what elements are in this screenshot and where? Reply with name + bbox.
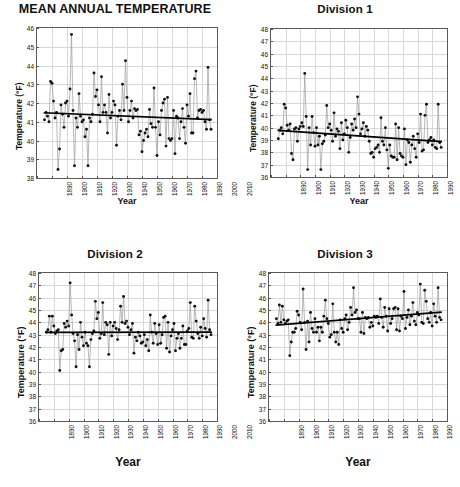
data-point-marker <box>431 143 434 146</box>
data-point-marker <box>403 290 406 293</box>
x-axis-tick-label: 1960 <box>402 425 409 451</box>
data-point-marker <box>195 70 198 73</box>
x-axis-tick-mark <box>217 419 218 421</box>
data-point-marker <box>309 143 312 146</box>
data-point-marker <box>404 327 407 330</box>
data-point-marker <box>423 289 426 292</box>
x-axis-tick-label: 1930 <box>359 181 366 207</box>
data-point-marker <box>181 107 184 110</box>
data-point-marker <box>331 140 334 143</box>
data-point-marker <box>385 148 388 151</box>
data-point-marker <box>70 313 73 316</box>
data-point-marker <box>361 311 364 314</box>
x-axis-tick-label: 1960 <box>171 182 178 208</box>
data-point-marker <box>395 328 398 331</box>
data-point-marker <box>366 129 369 132</box>
data-point-marker <box>346 126 349 129</box>
series-connecting-line <box>45 35 212 170</box>
data-point-marker <box>296 310 299 313</box>
data-point-marker <box>425 103 428 106</box>
x-axis-tick-label: 1950 <box>388 181 395 207</box>
x-axis-tick-label: 1910 <box>329 181 336 207</box>
data-point-marker <box>337 130 340 133</box>
x-axis-tick-label: 1970 <box>186 182 193 208</box>
data-point-marker <box>440 318 443 321</box>
x-axis-tick-label: 1980 <box>432 425 439 451</box>
data-point-marker <box>346 328 349 331</box>
data-point-marker <box>353 118 356 121</box>
data-point-marker <box>318 339 321 342</box>
data-point-marker <box>122 295 125 298</box>
y-axis-tick-label: 42 <box>20 100 34 107</box>
data-point-marker <box>321 331 324 334</box>
data-point-marker <box>75 365 78 368</box>
data-point-marker <box>135 339 138 342</box>
data-point-marker <box>199 326 202 329</box>
x-axis-tick-label: 1940 <box>141 182 148 208</box>
data-point-marker <box>48 315 51 318</box>
data-point-marker <box>389 322 392 325</box>
data-point-marker <box>315 331 318 334</box>
data-point-marker <box>159 133 162 136</box>
data-point-marker <box>97 103 100 106</box>
data-point-marker <box>124 59 127 62</box>
data-point-marker <box>358 113 361 116</box>
data-point-marker <box>396 158 399 161</box>
y-axis-tick-label: 44 <box>252 319 266 326</box>
x-axis-tick-label: 1920 <box>343 425 350 451</box>
data-point-marker <box>355 126 358 129</box>
data-point-marker <box>186 103 189 106</box>
data-point-marker <box>165 145 168 148</box>
data-point-marker <box>330 333 333 336</box>
data-point-marker <box>388 307 391 310</box>
x-axis-tick-label: 1920 <box>111 182 118 208</box>
data-point-marker <box>167 321 170 324</box>
data-point-marker <box>315 126 318 129</box>
y-axis-tick-label: 39 <box>254 137 268 144</box>
y-axis-tick-label: 38 <box>254 149 268 156</box>
x-axis-tick-label: 1920 <box>113 425 120 451</box>
data-point-marker <box>352 286 355 289</box>
data-point-marker <box>289 123 292 126</box>
data-series <box>271 29 447 177</box>
data-point-marker <box>78 348 81 351</box>
y-axis-tick-label: 40 <box>252 368 266 375</box>
data-point-marker <box>333 331 336 334</box>
data-point-marker <box>407 309 410 312</box>
data-point-marker <box>52 100 55 103</box>
data-series <box>39 273 217 421</box>
data-point-marker <box>368 326 371 329</box>
data-point-marker <box>275 317 278 320</box>
x-axis-tick-mark <box>447 419 448 421</box>
data-point-marker <box>286 124 289 127</box>
data-point-marker <box>193 77 196 80</box>
data-point-marker <box>189 301 192 304</box>
data-point-marker <box>435 147 438 150</box>
x-axis-tick-label: 1970 <box>187 425 194 451</box>
data-point-marker <box>154 126 157 129</box>
data-point-marker <box>204 120 207 123</box>
data-point-marker <box>192 337 195 340</box>
data-point-marker <box>126 96 129 99</box>
panel-title: Division 1 <box>230 3 460 15</box>
data-point-marker <box>103 333 106 336</box>
data-point-marker <box>382 326 385 329</box>
y-axis-tick-label: 39 <box>22 381 36 388</box>
data-point-marker <box>403 127 406 130</box>
data-point-marker <box>290 341 293 344</box>
data-point-marker <box>145 128 148 131</box>
data-point-marker <box>300 328 303 331</box>
data-series <box>37 28 217 178</box>
data-point-marker <box>384 126 387 129</box>
data-point-marker <box>138 133 141 136</box>
data-point-marker <box>322 140 325 143</box>
y-axis-tick-label: 37 <box>252 405 266 412</box>
data-point-marker <box>281 305 284 308</box>
data-point-marker <box>365 125 368 128</box>
data-point-marker <box>73 339 76 342</box>
data-point-marker <box>95 317 98 320</box>
y-axis-tick-label: 43 <box>22 331 36 338</box>
data-point-marker <box>69 281 72 284</box>
data-point-marker <box>48 120 51 123</box>
data-point-marker <box>192 132 195 135</box>
